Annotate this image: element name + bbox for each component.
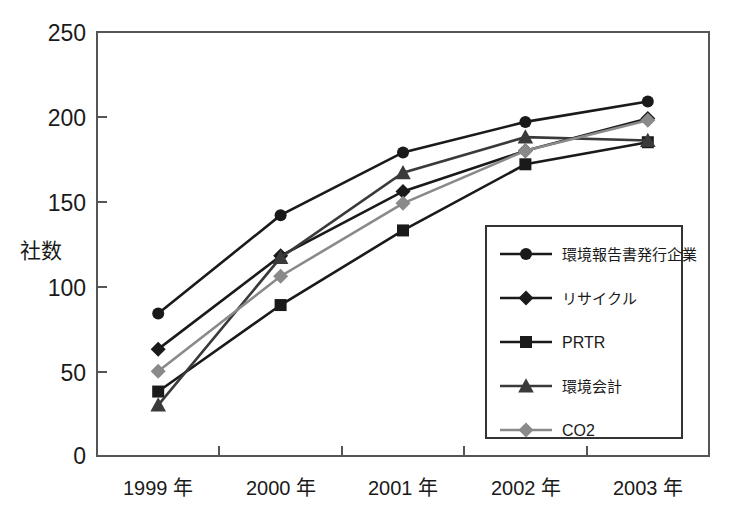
x-tick-label-2003: 2003 年 xyxy=(613,477,683,499)
data-point-marker xyxy=(152,308,164,320)
y-tick-label-250: 250 xyxy=(48,20,86,46)
legend-entry-label: CO2 xyxy=(562,422,595,439)
legend-entry-label: PRTR xyxy=(562,334,605,351)
x-tick-label-2001: 2001 年 xyxy=(368,477,438,499)
y-tick-label-150: 150 xyxy=(48,190,86,216)
y-axis-title: 社数 xyxy=(20,239,62,263)
y-tick-label-100: 100 xyxy=(48,275,86,301)
data-point-marker xyxy=(642,96,654,108)
x-tick-label-2000: 2000 年 xyxy=(246,477,316,499)
data-point-marker xyxy=(275,209,287,221)
y-tick-label-0: 0 xyxy=(73,443,86,469)
legend-entry-label: 環境報告書発行企業 xyxy=(562,246,697,264)
square-marker-icon xyxy=(520,336,532,348)
chart-canvas: 250 200 150 100 50 0 社数 1999 年 2000 年 20… xyxy=(0,0,731,521)
data-point-marker xyxy=(397,224,409,236)
data-point-marker xyxy=(152,386,164,398)
y-tick-label-200: 200 xyxy=(48,105,86,131)
x-tick-label-2002: 2002 年 xyxy=(491,477,561,499)
line-chart: 250 200 150 100 50 0 社数 1999 年 2000 年 20… xyxy=(0,0,731,521)
data-point-marker xyxy=(519,158,531,170)
chart-legend: 環境報告書発行企業リサイクルPRTR環境会計CO2 xyxy=(486,226,697,439)
x-tick-label-1999: 1999 年 xyxy=(123,477,193,499)
y-tick-label-50: 50 xyxy=(60,360,86,386)
legend-entry-label: 環境会計 xyxy=(562,378,622,396)
legend-entry-label: リサイクル xyxy=(562,290,637,308)
data-point-marker xyxy=(519,116,531,128)
data-point-marker xyxy=(275,299,287,311)
data-point-marker xyxy=(397,146,409,158)
circle-marker-icon xyxy=(520,248,532,260)
x-axis-labels: 1999 年 2000 年 2001 年 2002 年 2003 年 xyxy=(123,477,683,499)
